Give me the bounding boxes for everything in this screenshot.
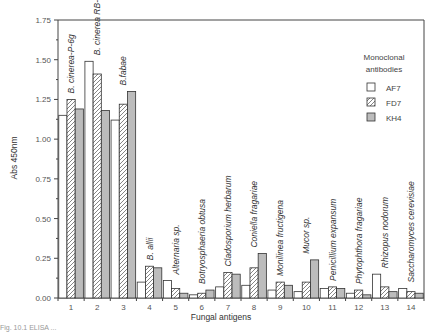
x-tick-label: 11	[328, 303, 337, 312]
bar-kh4-13	[389, 292, 397, 298]
bar-kh4-12	[363, 295, 371, 298]
bar-af7-2	[85, 61, 93, 298]
x-tick-label: 13	[380, 303, 389, 312]
x-tick-label: 2	[95, 303, 100, 312]
bar-fd7-11	[328, 287, 336, 298]
bar-kh4-10	[310, 260, 318, 298]
species-label: Monilinea fructigena	[275, 200, 285, 276]
bar-fd7-3	[119, 104, 127, 298]
x-tick-label: 14	[406, 303, 415, 312]
x-tick-label: 12	[354, 303, 363, 312]
figure-caption: Fig. 10.1 ELISA ...	[0, 324, 56, 331]
bar-kh4-7	[232, 274, 240, 298]
y-tick-label: 1.00	[35, 135, 51, 144]
legend-title-line1: Monoclonal	[364, 53, 405, 62]
bar-af7-12	[346, 293, 354, 298]
bar-fd7-10	[302, 282, 310, 298]
x-tick-label: 7	[226, 303, 231, 312]
bar-af7-13	[372, 274, 380, 298]
y-tick-label: 0.50	[35, 215, 51, 224]
bar-af7-14	[399, 288, 407, 298]
bar-fd7-7	[224, 273, 232, 298]
y-tick-label: 0.75	[35, 175, 51, 184]
legend-label-fd7: FD7	[386, 99, 402, 108]
bar-af7-1	[59, 115, 67, 298]
x-tick-label: 5	[173, 303, 178, 312]
bar-kh4-4	[154, 268, 162, 298]
bar-fd7-5	[172, 288, 180, 298]
bar-fd7-8	[250, 268, 258, 298]
species-label: Alternaria sp.	[171, 224, 181, 275]
legend-swatch-fd7	[367, 98, 375, 106]
x-tick-label: 9	[278, 303, 283, 312]
y-tick-label: 0.00	[35, 294, 51, 303]
bar-kh4-3	[127, 91, 135, 298]
bar-fd7-9	[276, 282, 284, 298]
legend-title-line2: antibodies	[366, 65, 402, 74]
x-tick-label: 10	[302, 303, 311, 312]
y-tick-label: 0.25	[35, 254, 51, 263]
legend: Monoclonal antibodies AF7FD7KH4	[364, 53, 405, 123]
x-tick-label: 8	[252, 303, 257, 312]
bar-af7-8	[242, 285, 250, 298]
y-tick-label: 1.50	[35, 56, 51, 65]
y-tick-label: 1.25	[35, 95, 51, 104]
y-tick-label: 1.75	[35, 16, 51, 25]
species-label: B. cinerea-P-6g	[66, 34, 76, 93]
bar-chart: 0.000.250.500.751.001.251.501.7512345678…	[0, 0, 435, 333]
bar-kh4-5	[180, 293, 188, 298]
legend-label-kh4: KH4	[386, 114, 402, 123]
bar-fd7-2	[93, 74, 101, 298]
species-label: B. cinerea RB-1	[92, 0, 102, 55]
bar-af7-5	[163, 281, 171, 298]
bar-af7-6	[189, 295, 197, 298]
bar-fd7-1	[67, 99, 75, 298]
species-label: Phytophthora fragariae	[354, 197, 364, 284]
bar-af7-7	[216, 287, 224, 298]
bar-fd7-14	[407, 292, 415, 298]
species-label: Cladosporium herbarum	[223, 175, 233, 266]
bar-kh4-6	[206, 290, 214, 298]
y-axis-title: Abs 450nm	[9, 137, 19, 180]
bar-kh4-8	[258, 254, 266, 298]
species-label: Penicillium expansum	[328, 199, 338, 281]
legend-swatch-af7	[367, 83, 375, 91]
x-tick-label: 6	[200, 303, 205, 312]
bar-af7-10	[294, 292, 302, 298]
bar-af7-11	[320, 288, 328, 298]
bar-kh4-11	[337, 288, 345, 298]
x-tick-label: 4	[147, 303, 152, 312]
bar-af7-9	[268, 290, 276, 298]
species-label: Coniella fragariae	[249, 181, 259, 248]
bar-fd7-4	[145, 266, 153, 298]
x-tick-label: 3	[121, 303, 126, 312]
bar-fd7-12	[355, 290, 363, 298]
bars	[59, 61, 423, 298]
x-axis-title: Fungal antigens	[191, 312, 252, 322]
x-tick-label: 1	[69, 303, 74, 312]
bar-af7-3	[111, 120, 119, 298]
bar-kh4-9	[284, 285, 292, 298]
species-label: B. allii	[145, 236, 155, 260]
legend-swatch-kh4	[367, 113, 375, 121]
species-label: B.fabae	[118, 56, 128, 86]
bar-kh4-1	[75, 109, 83, 298]
species-label: Rhizopus nodorum	[380, 197, 390, 268]
bar-af7-4	[137, 282, 145, 298]
bar-kh4-2	[101, 111, 109, 298]
bar-fd7-13	[381, 287, 389, 298]
legend-label-af7: AF7	[386, 84, 401, 93]
bar-fd7-6	[198, 293, 206, 298]
species-label: Saccharomyces cerevisiae	[406, 181, 416, 282]
species-label: Mucor sp.	[301, 217, 311, 254]
species-label: Botryosphaeria obtusa	[197, 199, 207, 284]
bar-kh4-14	[415, 293, 423, 298]
